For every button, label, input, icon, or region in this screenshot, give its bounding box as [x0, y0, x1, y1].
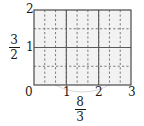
x-tick-label-0: 0	[25, 86, 33, 98]
x-tick-label-3: 3	[128, 86, 136, 98]
x-fraction-denominator: 3	[72, 111, 88, 123]
y-tick-label-1: 1	[26, 41, 34, 53]
y-fraction-numerator: 3	[6, 34, 22, 46]
x-fraction-numerator: 8	[72, 96, 88, 108]
math-grid-figure: 0 1 2 3 1 2 3 2 8 3	[0, 0, 144, 126]
y-fraction-label: 3 2	[6, 34, 22, 61]
x-tick-label-1: 1	[63, 86, 71, 98]
y-fraction-denominator: 2	[6, 49, 22, 61]
y-tick-label-2: 2	[26, 3, 34, 15]
x-tick-label-2: 2	[95, 86, 103, 98]
x-fraction-label: 8 3	[72, 96, 88, 123]
